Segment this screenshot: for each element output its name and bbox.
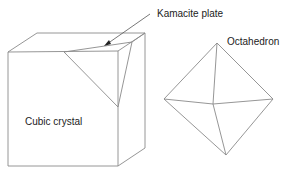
crystal-diagram: Kamacite plate Octahedron Cubic crystal: [0, 0, 286, 174]
cubic-crystal-label: Cubic crystal: [25, 117, 82, 127]
kamacite-leader: [104, 14, 150, 46]
octahedron-lower-edge: [213, 104, 226, 155]
octahedron-label: Octahedron: [227, 37, 279, 47]
diagram-drawing: [0, 0, 286, 174]
octahedron-upper-edge: [213, 43, 217, 104]
kamacite-plate-ridge: [132, 33, 145, 42]
cube-top-face: [8, 33, 145, 52]
octahedron-shape: [164, 43, 273, 155]
kamacite-plate-label: Kamacite plate: [157, 9, 223, 19]
octahedron-outline: [164, 43, 273, 155]
cube-right-face: [118, 33, 145, 166]
octahedron-equator: [164, 99, 273, 104]
cube-shape: [8, 33, 145, 166]
leader-line: [107, 14, 150, 44]
cube-front-face: [8, 51, 118, 166]
